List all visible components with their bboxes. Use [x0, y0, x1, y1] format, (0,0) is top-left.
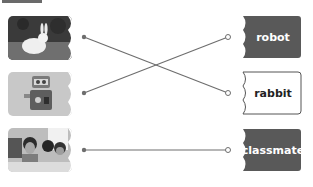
- word-label: rabbit: [240, 71, 302, 115]
- right-dot-1[interactable]: [226, 35, 231, 40]
- right-dot-3[interactable]: [226, 148, 231, 153]
- word-tab-robot[interactable]: robot: [240, 15, 302, 59]
- right-dot-2[interactable]: [226, 91, 231, 96]
- left-dot-2[interactable]: [82, 91, 86, 95]
- left-dot-3[interactable]: [82, 148, 86, 152]
- word-tab-rabbit[interactable]: rabbit: [240, 71, 302, 115]
- word-label: robot: [240, 15, 302, 59]
- word-tab-classmate[interactable]: classmate: [240, 128, 302, 172]
- left-dot-1[interactable]: [82, 35, 86, 39]
- word-label: classmate: [240, 128, 302, 172]
